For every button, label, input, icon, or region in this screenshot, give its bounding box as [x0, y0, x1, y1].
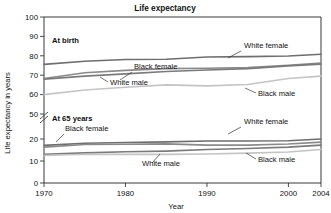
series-annotation-label: White male — [142, 159, 180, 168]
y-tick-label: 20 — [29, 135, 38, 144]
chart-svg: Life expectancy Life expectancy in years… — [0, 0, 331, 213]
y-tick-label: 80 — [29, 52, 38, 61]
series-annotation-label: White female — [244, 41, 288, 50]
x-tick-label: 2000 — [280, 189, 298, 198]
y-tick-label: 70 — [29, 71, 38, 80]
x-tick-label: 2004 — [312, 189, 330, 198]
y-tick-label: 100 — [25, 13, 39, 22]
y-tick-label: 90 — [29, 32, 38, 41]
x-tick-label: 1970 — [35, 189, 53, 198]
series-annotation-label: Black male — [258, 89, 295, 98]
y-tick-label: 10 — [29, 157, 38, 166]
y-tick-label: 0 — [34, 179, 39, 188]
series-annotation-label: White male — [110, 78, 148, 87]
chart-background — [0, 0, 331, 213]
x-axis-label: Year — [168, 202, 184, 211]
y-tick-label: 50 — [29, 110, 38, 119]
series-annotation-label: White female — [244, 117, 288, 126]
series-annotation-label: Black female — [134, 62, 177, 71]
chart-title: Life expectancy — [134, 4, 196, 13]
group-label-at-birth: At birth — [52, 36, 79, 45]
group-label-at-65-years: At 65 years — [52, 114, 93, 123]
series-annotation-label: Black female — [65, 124, 108, 133]
series-annotation-label: Black male — [258, 155, 295, 164]
y-tick-label: 60 — [29, 90, 38, 99]
y-axis-label: Life expectancy in years — [3, 72, 12, 154]
life-expectancy-chart: Life expectancy Life expectancy in years… — [0, 0, 331, 213]
x-tick-label: 1980 — [117, 189, 135, 198]
x-tick-label: 1990 — [198, 189, 216, 198]
